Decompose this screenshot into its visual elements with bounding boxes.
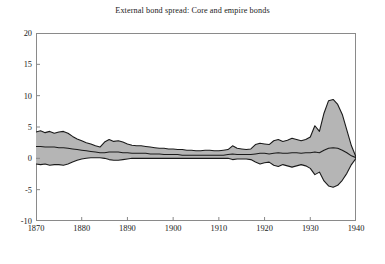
x-tick-label: 1880 (62, 224, 102, 233)
x-tick-label: 1920 (245, 224, 285, 233)
chart-plot-svg (36, 33, 356, 221)
chart-title: External bond spread: Core and empire bo… (0, 6, 385, 15)
chart-figure: External bond spread: Core and empire bo… (0, 0, 385, 264)
plot-area (36, 33, 356, 221)
x-tick-label: 1890 (107, 224, 147, 233)
x-axis-tick-labels: 18701880189019001910192019301940 (0, 224, 385, 240)
y-tick-label: 20 (6, 29, 32, 38)
y-tick-label: 5 (6, 123, 32, 132)
plot-frame (37, 34, 356, 221)
y-tick-label: -5 (6, 185, 32, 194)
x-tick-label: 1940 (336, 224, 376, 233)
x-tick-label: 1930 (290, 224, 330, 233)
x-tick-label: 1870 (16, 224, 56, 233)
confidence-band-area (36, 99, 356, 187)
x-tick-label: 1910 (199, 224, 239, 233)
y-tick-label: 0 (6, 154, 32, 163)
y-tick-label: 15 (6, 60, 32, 69)
y-axis-tick-labels: 20151050-5-10 (4, 33, 32, 221)
axis-frame (37, 34, 356, 221)
y-tick-label: 10 (6, 91, 32, 100)
x-tick-label: 1900 (153, 224, 193, 233)
